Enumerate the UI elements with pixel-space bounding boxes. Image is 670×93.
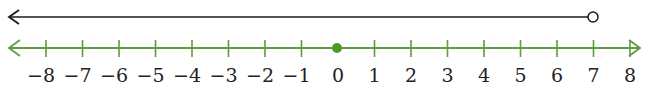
tick-label: 5 [514,64,526,86]
tick-label: 3 [441,64,453,86]
tick-label: −4 [173,64,201,86]
tick-label: −6 [100,64,128,86]
tick-label: 1 [368,64,380,86]
tick-label: −5 [136,64,164,86]
tick-label: 8 [624,64,636,86]
open-circle-endpoint [588,12,598,22]
tick-labels: −8−7−6−5−4−3−2−1012345678 [27,64,636,86]
tick-label: −1 [282,64,310,86]
tick-label: 4 [478,64,490,86]
number-line-axis [9,40,640,56]
closed-dot-zero [332,43,342,53]
tick-label: 7 [587,64,599,86]
solution-ray [9,10,598,24]
tick-label: 2 [405,64,417,86]
tick-label: −7 [63,64,91,86]
tick-label: −2 [246,64,274,86]
tick-label: 6 [551,64,563,86]
tick-label: 0 [332,64,344,86]
tick-label: −8 [27,64,55,86]
tick-label: −3 [209,64,237,86]
number-line-diagram: −8−7−6−5−4−3−2−1012345678 [0,0,670,93]
